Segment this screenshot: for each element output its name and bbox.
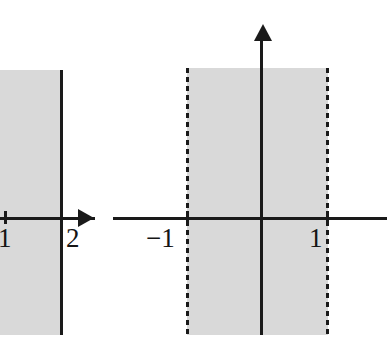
right-boundary-dashed-left [186,68,189,335]
left-number-line-plot: 1 2 [0,0,110,358]
left-boundary-solid-line [60,70,63,335]
math-figure: 1 2 −1 1 [0,0,387,358]
right-y-axis [260,40,263,335]
left-shaded-region [0,70,62,335]
right-tick-minus-1 [186,211,189,224]
right-shaded-region [187,68,328,335]
left-tick-label-2: 2 [66,225,80,252]
right-tick-label-1: 1 [309,225,323,252]
right-y-axis-arrow-icon [254,24,272,41]
right-tick-label-minus-1: −1 [146,225,175,252]
right-number-line-plot: −1 1 [110,0,387,358]
right-tick-1 [326,211,329,224]
right-x-axis [113,217,387,220]
left-tick-label-1: 1 [0,225,12,252]
left-x-axis-arrow-icon [78,209,94,227]
right-boundary-dashed-right [326,68,329,335]
